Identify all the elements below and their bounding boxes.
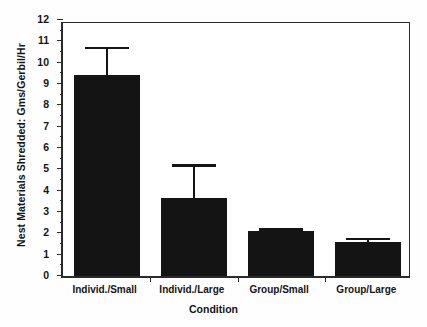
x-axis-title: Condition (0, 303, 427, 315)
y-axis-title: Nest Materials Shredded: Gms/Gerbil/Hr (15, 20, 27, 270)
error-bar-cap (346, 238, 390, 241)
y-axis-tick-minor (60, 30, 64, 31)
y-axis-tick-minor (60, 222, 64, 223)
y-axis-tick-major: 1 (57, 254, 63, 255)
y-axis-tick-major: 9 (57, 83, 63, 84)
y-axis-tick-minor (60, 51, 64, 52)
y-axis-tick-minor (60, 115, 64, 116)
y-axis-tick-label: 4 (43, 184, 49, 197)
error-bar (85, 47, 129, 76)
error-bar (172, 164, 216, 198)
y-axis-tick-minor (60, 158, 64, 159)
y-axis-tick-major: 12 (57, 19, 63, 20)
bar (74, 75, 140, 276)
error-bar-cap (259, 228, 303, 231)
x-axis-tick (238, 276, 239, 282)
y-axis-tick-major: 8 (57, 104, 63, 105)
y-axis-tick-major: 2 (57, 232, 63, 233)
x-axis-tick (150, 276, 151, 282)
y-axis-tick-major: 4 (57, 190, 63, 191)
y-axis-tick-label: 7 (43, 120, 49, 133)
error-bar-stem (193, 164, 195, 198)
y-axis-tick-minor (60, 72, 64, 73)
y-axis-tick-label: 2 (43, 226, 49, 239)
y-axis-tick-major: 0 (57, 275, 63, 276)
y-axis-tick-major: 5 (57, 168, 63, 169)
error-bar-stem (106, 47, 108, 76)
y-axis-tick-major: 7 (57, 126, 63, 127)
y-axis-tick-label: 8 (43, 98, 49, 111)
y-axis-tick-minor (60, 264, 64, 265)
x-axis-category-label: Group/Small (236, 284, 323, 295)
error-bar (259, 228, 303, 231)
bar-chart-figure: Nest Materials Shredded: Gms/Gerbil/Hr 0… (0, 0, 427, 327)
y-axis-tick-label: 5 (43, 162, 49, 175)
y-axis-tick-label: 12 (37, 13, 49, 26)
error-bar-cap (172, 164, 216, 167)
x-axis-category-label: Individ./Small (61, 284, 148, 295)
y-axis-tick-label: 1 (43, 248, 49, 261)
y-axis-tick-label: 0 (43, 269, 49, 282)
error-bar (346, 238, 390, 242)
y-axis-tick-major: 3 (57, 211, 63, 212)
bar (248, 231, 314, 276)
error-bar-cap (85, 47, 129, 50)
bar (335, 242, 401, 276)
x-axis-category-label: Individ./Large (148, 284, 235, 295)
x-axis-tick (325, 276, 326, 282)
y-axis-tick-minor (60, 179, 64, 180)
x-axis-category-label: Group/Large (323, 284, 410, 295)
y-axis-tick-major: 10 (57, 62, 63, 63)
y-axis-tick-minor (60, 200, 64, 201)
y-axis-tick-major: 6 (57, 147, 63, 148)
bar (161, 198, 227, 276)
y-axis-tick-major: 11 (57, 40, 63, 41)
y-axis-tick-label: 3 (43, 205, 49, 218)
plot-area: 0123456789101112 (61, 22, 410, 278)
y-axis-tick-minor (60, 243, 64, 244)
y-axis-tick-label: 10 (37, 56, 49, 69)
y-axis-tick-label: 9 (43, 77, 49, 90)
y-axis-tick-label: 11 (38, 34, 49, 47)
y-axis-tick-minor (60, 94, 64, 95)
y-axis-tick-minor (60, 136, 64, 137)
y-axis-tick-label: 6 (43, 141, 49, 154)
